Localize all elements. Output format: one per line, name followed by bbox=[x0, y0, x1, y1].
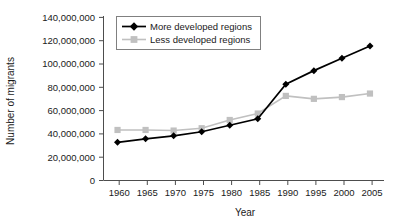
y-tick-label: 60,000,000 bbox=[47, 105, 95, 116]
data-point-square bbox=[311, 96, 317, 102]
square-icon bbox=[131, 36, 138, 43]
x-tick-label: 2000 bbox=[333, 187, 354, 198]
x-axis-title: Year bbox=[235, 207, 256, 218]
x-tick-label: 1995 bbox=[305, 187, 326, 198]
data-point-square bbox=[283, 93, 289, 99]
x-tick-label: 1975 bbox=[193, 187, 214, 198]
y-axis-title: Number of migrants bbox=[5, 57, 16, 145]
migrants-line-chart: 0 20,000,000 40,000,000 60,000,000 80,00… bbox=[0, 0, 396, 224]
chart-canvas: 0 20,000,000 40,000,000 60,000,000 80,00… bbox=[0, 0, 396, 224]
x-tick-label: 1970 bbox=[165, 187, 186, 198]
x-tick-label: 1965 bbox=[137, 187, 158, 198]
data-point-square bbox=[367, 90, 373, 96]
legend: More developed regions Less developed re… bbox=[117, 17, 261, 50]
y-tick-label: 80,000,000 bbox=[47, 82, 95, 93]
y-tick-label: 20,000,000 bbox=[47, 152, 95, 163]
data-point-square bbox=[142, 127, 148, 133]
y-tick-label: 0 bbox=[90, 175, 95, 186]
y-tick-label: 40,000,000 bbox=[47, 128, 95, 139]
x-tick-label: 2005 bbox=[362, 187, 383, 198]
x-tick-label: 1990 bbox=[277, 187, 298, 198]
y-tick-label: 140,000,000 bbox=[42, 12, 95, 23]
x-tick-label: 1985 bbox=[249, 187, 270, 198]
x-tick-label: 1960 bbox=[109, 187, 130, 198]
legend-label-less-developed: Less developed regions bbox=[150, 34, 251, 45]
data-point-square bbox=[114, 127, 120, 133]
x-tick-label: 1980 bbox=[221, 187, 242, 198]
y-tick-label: 120,000,000 bbox=[42, 35, 95, 46]
legend-label-more-developed: More developed regions bbox=[150, 21, 252, 32]
data-point-square bbox=[339, 94, 345, 100]
y-tick-label: 100,000,000 bbox=[42, 58, 95, 69]
